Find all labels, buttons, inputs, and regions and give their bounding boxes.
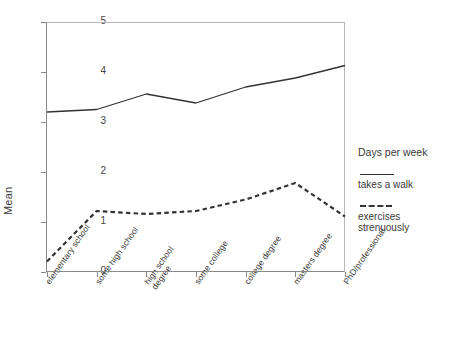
chart-figure: Mean 012345 elementary schoolsome high s… — [0, 0, 460, 358]
legend-swatch-solid-line-icon — [360, 174, 394, 175]
chart-legend: Days per week takes a walk exercises str… — [358, 146, 458, 248]
series-line-1 — [47, 66, 345, 113]
legend-label-exercises-strenuously: exercises strenuously — [358, 211, 458, 234]
legend-entry-takes-a-walk: takes a walk — [358, 174, 458, 191]
legend-swatch-dashed-line-icon — [360, 205, 392, 207]
legend-title: Days per week — [358, 146, 458, 158]
series-line-2 — [47, 183, 345, 262]
legend-entry-exercises-strenuously: exercises strenuously — [358, 205, 458, 234]
legend-label-takes-a-walk: takes a walk — [358, 179, 458, 191]
